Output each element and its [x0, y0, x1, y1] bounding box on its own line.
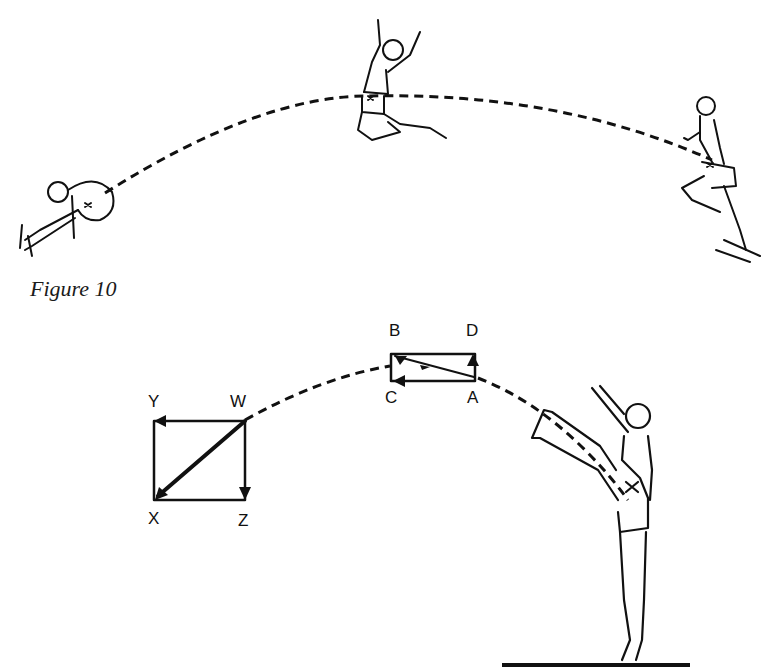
label-z: Z — [238, 512, 248, 529]
diagram-canvas: Figure 10 B D C A Y W X Z — [0, 0, 777, 672]
label-a: A — [467, 389, 478, 406]
label-b: B — [389, 322, 400, 339]
takeoff-athlete-figure — [682, 97, 760, 262]
label-c: C — [385, 389, 397, 406]
kicking-athlete-figure — [532, 386, 652, 660]
flight-athlete-figure — [358, 20, 446, 140]
label-d: D — [466, 322, 478, 339]
figure-caption: Figure 10 — [30, 276, 117, 302]
label-x: X — [148, 510, 159, 527]
vector-box-bdca — [391, 354, 479, 387]
landing-athlete-figure — [20, 181, 114, 256]
vector-box-ywxz — [154, 415, 251, 500]
bottom-trajectory — [245, 366, 628, 500]
label-w: W — [230, 393, 246, 410]
label-y: Y — [148, 393, 159, 410]
top-trajectory — [105, 96, 712, 193]
